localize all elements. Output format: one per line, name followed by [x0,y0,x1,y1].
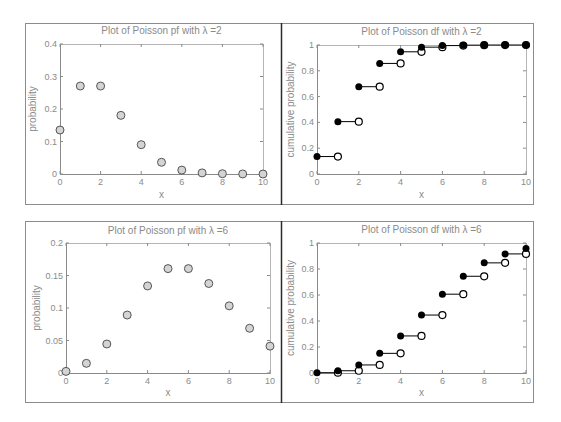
data-point [82,359,90,367]
filled-point [481,259,488,266]
filled-point [334,367,341,374]
y-axis-label: cumulative probability [285,61,296,157]
filled-point [502,250,509,257]
y-tick-label: 0.4 [44,39,57,49]
data-point [137,141,145,149]
x-tick-label: 4 [139,177,144,187]
data-point [246,324,254,332]
data-point [103,340,111,348]
filled-point [460,42,467,49]
y-tick-label: 1 [309,238,314,248]
y-tick-label: 0 [309,169,314,179]
x-axis-label: x [166,387,171,398]
x-tick-label: 10 [265,376,275,386]
data-point [205,279,213,287]
filled-point [376,60,383,67]
y-tick-label: 0.6 [301,92,314,102]
open-point [376,361,383,368]
data-point [123,311,131,319]
filled-point [334,118,341,125]
bottom-panel-frame [26,222,534,403]
open-point [502,259,509,266]
x-tick-label: 0 [57,177,62,187]
x-tick-label: 4 [398,376,403,386]
y-tick-label: 0.2 [301,143,314,153]
data-point [266,342,274,350]
data-point [225,302,233,310]
filled-point [481,42,488,49]
chart-title: Plot of Poisson df with λ =6 [361,224,482,235]
figure-canvas: Plot of Poisson pf with λ =2 x probabili… [0,0,561,422]
y-tick-label: 0.2 [301,342,314,352]
plot-area: 024681000.050.10.150.2 [45,238,275,386]
filled-point [397,48,404,55]
y-tick-label: 0 [309,368,314,378]
x-tick-label: 8 [482,376,487,386]
filled-point [418,44,425,51]
axes-box [318,46,527,175]
x-tick-label: 4 [145,376,150,386]
data-point [259,170,267,178]
open-point [418,332,425,339]
x-tick-label: 8 [220,177,225,187]
x-tick-label: 2 [356,376,361,386]
data-point [178,166,186,174]
x-tick-label: 2 [356,177,361,187]
open-point [334,153,341,160]
x-axis-label: x [419,189,424,200]
y-tick-label: 0.1 [50,303,63,313]
open-point [397,350,404,357]
x-tick-label: 0 [314,177,319,187]
y-tick-label: 0.6 [301,290,314,300]
x-axis-label: x [419,387,424,398]
chart-poisson-df-lambda-2: Plot of Poisson df with λ =2 x cumulativ… [285,26,531,200]
y-tick-label: 0.4 [301,316,314,326]
chart-title: Plot of Poisson pf with λ =6 [108,225,229,236]
chart-title: Plot of Poisson df with λ =2 [361,26,482,37]
y-tick-label: 0.2 [44,104,57,114]
filled-point [439,291,446,298]
chart-poisson-pf-lambda-2: Plot of Poisson pf with λ =2 x probabili… [27,25,268,200]
data-point [184,265,192,273]
y-tick-label: 0.05 [45,336,63,346]
data-point [76,82,84,90]
x-tick-label: 4 [398,177,403,187]
open-point [376,83,383,90]
x-tick-label: 8 [227,376,232,386]
y-tick-label: 0.1 [44,137,57,147]
filled-point [314,153,321,160]
data-point [164,265,172,273]
axes-box [61,45,264,175]
y-tick-label: 0.15 [45,271,63,281]
y-tick-label: 0.2 [50,238,63,248]
open-point [439,312,446,319]
chart-title: Plot of Poisson pf with λ =2 [101,25,222,36]
data-point [117,111,125,119]
filled-point [523,245,530,252]
filled-point [439,42,446,49]
y-axis-label: probability [27,86,38,132]
data-point [218,170,226,178]
y-tick-label: 1 [309,40,314,50]
plot-area: 024681000.10.20.30.4 [44,39,268,187]
x-tick-label: 2 [98,177,103,187]
data-point [97,82,105,90]
poisson-figure: Plot of Poisson pf with λ =2 x probabili… [0,0,561,422]
data-point [239,170,247,178]
data-point [198,169,206,177]
x-tick-label: 0 [314,376,319,386]
filled-point [376,350,383,357]
filled-point [355,83,362,90]
open-point [460,291,467,298]
data-point [62,367,70,375]
x-tick-label: 0 [63,376,68,386]
data-point [56,126,64,134]
open-point [355,118,362,125]
y-tick-label: 0.3 [44,72,57,82]
filled-point [397,332,404,339]
y-tick-label: 0.8 [301,66,314,76]
x-tick-label: 6 [179,177,184,187]
data-point [158,158,166,166]
y-tick-label: 0 [52,169,57,179]
x-tick-label: 2 [104,376,109,386]
